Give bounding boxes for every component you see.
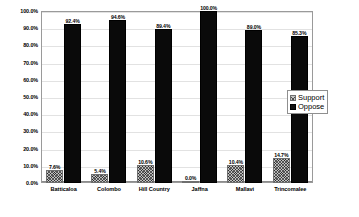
y-axis-tick-label: 10.0% — [0, 163, 38, 169]
bar-group: 0.0%100.0% — [177, 11, 222, 183]
y-axis-tick-label: 30.0% — [0, 128, 38, 134]
x-axis-tick-label: Batticaloa — [41, 186, 86, 192]
bar-value-label: 89.0% — [247, 24, 261, 30]
bar-slot: 92.4% — [64, 11, 81, 183]
bar-slot: 5.4% — [91, 11, 108, 183]
x-axis-tick-label: Jaffna — [177, 186, 222, 192]
legend-item-support[interactable]: Support — [290, 93, 324, 102]
y-axis-tick-label: 40.0% — [0, 111, 38, 117]
legend-label: Support — [298, 93, 324, 102]
bar-support[interactable]: 7.6% — [46, 170, 63, 183]
bar-group: 7.6%92.4% — [41, 11, 86, 183]
bar-value-label: 14.7% — [274, 152, 288, 158]
y-axis-tick-label: 0.0% — [0, 180, 38, 186]
x-axis-tick-label: Hill Country — [132, 186, 177, 192]
y-axis-tick-label: 80.0% — [0, 42, 38, 48]
y-axis-tick-label: 50.0% — [0, 94, 38, 100]
y-axis-tick-label: 20.0% — [0, 146, 38, 152]
legend-swatch-icon — [290, 104, 296, 110]
bar-value-label: 85.3% — [292, 30, 306, 36]
bar-slot: 10.6% — [137, 11, 154, 183]
bar-slot: 100.0% — [200, 11, 217, 183]
legend-label: Oppose — [298, 102, 324, 111]
y-axis-tick-label: 90.0% — [0, 25, 38, 31]
bar-value-label: 7.6% — [49, 164, 60, 170]
legend-item-oppose[interactable]: Oppose — [290, 102, 324, 111]
x-axis: BatticaloaColomboHill CountryJaffnaMalla… — [41, 186, 313, 192]
bar-support[interactable]: 0.0% — [182, 181, 199, 183]
bar-support[interactable]: 10.4% — [227, 165, 244, 183]
legend-swatch-icon — [290, 95, 296, 101]
x-axis-tick-label: Mallavi — [222, 186, 267, 192]
bar-oppose[interactable]: 92.4% — [64, 24, 81, 183]
bar-value-label: 89.4% — [156, 23, 170, 29]
bar-value-label: 94.6% — [111, 14, 125, 20]
bar-chart: 100.0%90.0%80.0%70.0%60.0%50.0%40.0%30.0… — [0, 0, 359, 217]
bar-value-label: 5.4% — [94, 168, 105, 174]
bar-oppose[interactable]: 94.6% — [109, 20, 126, 183]
y-axis-tick-label: 100.0% — [0, 8, 38, 14]
bar-support[interactable]: 5.4% — [91, 174, 108, 183]
y-axis-tick-label: 70.0% — [0, 60, 38, 66]
bar-slot: 89.0% — [245, 11, 262, 183]
bar-slot: 10.4% — [227, 11, 244, 183]
bar-slot: 89.4% — [155, 11, 172, 183]
bar-slot: 94.6% — [109, 11, 126, 183]
x-axis-tick-label: Trincomalee — [268, 186, 313, 192]
bar-value-label: 100.0% — [200, 5, 217, 11]
y-axis: 100.0%90.0%80.0%70.0%60.0%50.0%40.0%30.0… — [0, 11, 40, 183]
bar-oppose[interactable]: 89.0% — [245, 30, 262, 183]
bar-value-label: 92.4% — [66, 18, 80, 24]
bar-oppose[interactable]: 89.4% — [155, 29, 172, 183]
x-axis-tick-label: Colombo — [86, 186, 131, 192]
bar-group: 5.4%94.6% — [86, 11, 131, 183]
bar-oppose[interactable]: 100.0% — [200, 11, 217, 183]
bar-group: 10.4%89.0% — [222, 11, 267, 183]
bar-slot: 0.0% — [182, 11, 199, 183]
bar-value-label: 0.0% — [185, 175, 196, 181]
bar-groups: 7.6%92.4%5.4%94.6%10.6%89.4%0.0%100.0%10… — [41, 11, 313, 183]
bar-value-label: 10.4% — [229, 159, 243, 165]
bar-value-label: 10.6% — [138, 159, 152, 165]
bar-support[interactable]: 14.7% — [273, 158, 290, 183]
bar-support[interactable]: 10.6% — [137, 165, 154, 183]
y-axis-tick-label: 60.0% — [0, 77, 38, 83]
bar-slot: 7.6% — [46, 11, 63, 183]
chart-legend: SupportOppose — [287, 90, 328, 114]
bar-group: 10.6%89.4% — [132, 11, 177, 183]
